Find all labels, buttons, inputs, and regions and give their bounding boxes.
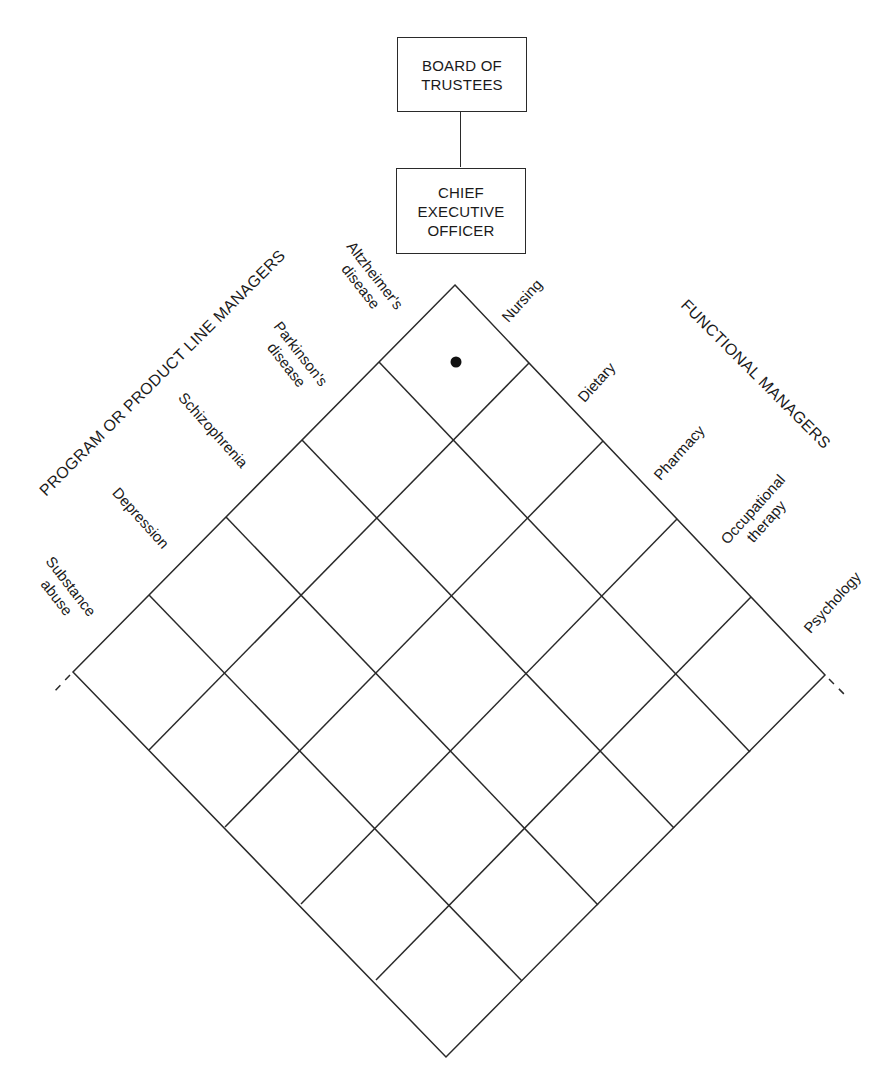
continuation-dashes xyxy=(52,675,848,698)
marked-cell-dot xyxy=(451,357,462,368)
right-continuation-dash xyxy=(829,679,848,698)
left-continuation-dash xyxy=(52,675,70,694)
